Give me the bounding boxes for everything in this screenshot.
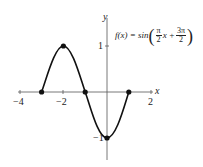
function-formula: f(x) = sin ( π 2 x + 3π 2 ) <box>115 26 193 44</box>
x-axis-label: x <box>155 86 159 96</box>
tick-label-y-neg1: −1 <box>93 133 104 143</box>
tick-label-x-2: 2 <box>148 97 153 107</box>
formula-paren-open: ( <box>149 25 155 45</box>
y-axis-label: y <box>103 12 107 22</box>
formula-mid: x + <box>163 30 175 40</box>
formula-frac-1: π 2 <box>156 27 162 44</box>
formula-frac-2: 3π 2 <box>176 27 186 44</box>
tick-label-x-neg4: −4 <box>13 97 24 107</box>
formula-lhs: f(x) = sin <box>115 30 149 40</box>
tick-label-y-1: 1 <box>98 41 103 51</box>
tick-label-x-neg2: −2 <box>56 97 67 107</box>
formula-paren-close: ) <box>187 25 193 45</box>
